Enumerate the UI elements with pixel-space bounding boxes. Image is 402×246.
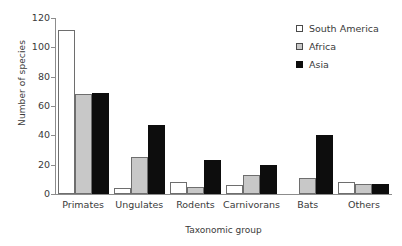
bar (299, 178, 316, 194)
legend-swatch-icon (296, 25, 303, 32)
x-axis-tick-label: Primates (62, 199, 104, 210)
legend-entry: South America (296, 20, 379, 36)
bar (204, 160, 221, 194)
x-axis-tick-label: Others (348, 199, 380, 210)
x-axis-tick-label: Rodents (176, 199, 215, 210)
y-axis-tick-label: 40 (38, 131, 50, 141)
bar (226, 185, 243, 194)
bar (114, 188, 131, 194)
bar (92, 93, 109, 194)
y-axis-tick-label: 100 (32, 43, 50, 53)
bar (170, 182, 187, 194)
bar-chart: Number of species 020406080100120 Taxono… (0, 0, 402, 246)
bar (355, 184, 372, 194)
bar (338, 182, 355, 194)
x-axis-tick-label: Bats (297, 199, 318, 210)
bar (58, 30, 75, 194)
x-axis-tick-label: Ungulates (115, 199, 163, 210)
legend-label: Asia (309, 59, 329, 70)
legend-label: South America (309, 23, 379, 34)
bar (372, 184, 389, 194)
y-axis-tick-labels: 020406080100120 (22, 18, 50, 194)
y-axis-tick-label: 80 (38, 72, 50, 82)
bar (260, 165, 277, 194)
bar (243, 175, 260, 194)
legend-swatch-icon (296, 61, 303, 68)
y-axis-tick-mark (51, 165, 55, 166)
x-axis-line (55, 194, 392, 195)
y-axis-tick-mark (51, 47, 55, 48)
bar (187, 187, 204, 194)
y-axis-tick-mark (51, 106, 55, 107)
y-axis-tick-label: 60 (38, 101, 50, 111)
x-axis-title: Taxonomic group (55, 225, 392, 235)
bar (131, 157, 148, 194)
x-axis-tick-label: Carnivorans (223, 199, 280, 210)
y-axis-tick-mark (51, 135, 55, 136)
legend-entry: Africa (296, 38, 379, 54)
y-axis-tick-label: 120 (32, 13, 50, 23)
legend-entry: Asia (296, 56, 379, 72)
legend-label: Africa (309, 41, 336, 52)
bar (316, 135, 333, 194)
y-axis-tick-mark (51, 18, 55, 19)
y-axis-tick-mark (51, 77, 55, 78)
y-axis-tick-mark (51, 194, 55, 195)
bar (148, 125, 165, 194)
y-axis-tick-label: 20 (38, 160, 50, 170)
chart-legend: South AmericaAfricaAsia (296, 20, 379, 74)
bar (75, 94, 92, 194)
legend-swatch-icon (296, 43, 303, 50)
y-axis-tick-label: 0 (44, 189, 50, 199)
